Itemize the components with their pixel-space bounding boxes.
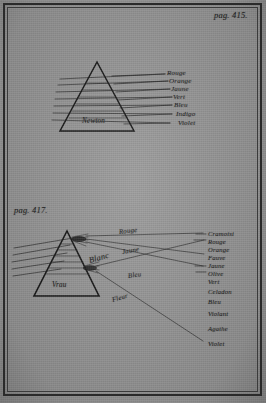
engraving-plate: pag. 415. Newton Rouge Orange Jaune Vert… — [0, 0, 266, 403]
plate-border-inner — [7, 7, 258, 392]
